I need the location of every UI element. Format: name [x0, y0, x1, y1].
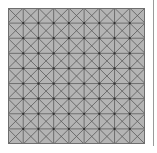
right-border-line — [153, 0, 154, 146]
figure-canvas — [0, 0, 157, 153]
triangulated-mesh-grid — [8, 8, 145, 144]
